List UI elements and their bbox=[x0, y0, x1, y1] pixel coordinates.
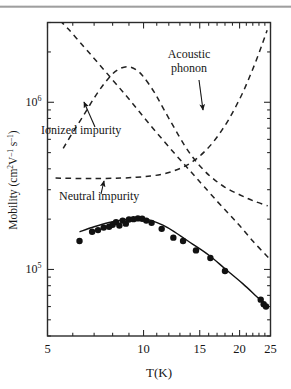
data-point-marker bbox=[159, 226, 165, 232]
data-point-markers bbox=[76, 215, 269, 310]
y-tick-label-exponent: 6 bbox=[38, 94, 42, 103]
y-axis-title: Mobility (cm2V–1 s–1) bbox=[6, 130, 20, 229]
x-tick-label: 15 bbox=[193, 342, 206, 356]
annotation-label: Ionized impurity bbox=[41, 123, 121, 137]
y-axis-tick-labels: 105106 bbox=[26, 94, 42, 276]
annotation-acoustic-phonon: Acousticphonon bbox=[168, 47, 211, 110]
data-point-marker bbox=[148, 220, 154, 226]
curve-series-group bbox=[53, 13, 268, 305]
x-axis-title: T(K) bbox=[146, 365, 172, 380]
annotation-label: Acoustic bbox=[168, 47, 211, 61]
annotation-label: Neutral impurity bbox=[59, 189, 139, 203]
data-point-marker bbox=[170, 234, 176, 240]
y-tick-label: 105 bbox=[26, 261, 42, 276]
data-point-marker bbox=[95, 227, 101, 233]
x-axis-tick-labels: 510152025 bbox=[44, 342, 276, 356]
y-tick-label-exponent: 5 bbox=[38, 261, 42, 270]
data-point-marker bbox=[76, 238, 82, 244]
data-point-marker bbox=[89, 229, 95, 235]
plot-frame bbox=[48, 23, 271, 337]
x-tick-label: 10 bbox=[137, 342, 150, 356]
x-tick-label: 5 bbox=[44, 342, 50, 356]
data-point-marker bbox=[100, 224, 106, 230]
y-tick-label: 106 bbox=[26, 94, 42, 109]
y-tick-label-text: 105 bbox=[26, 261, 42, 276]
y-tick-label-text: 106 bbox=[26, 94, 42, 109]
y-axis-ticks bbox=[48, 23, 271, 337]
figure-root: Ionized impurityAcousticphononNeutral im… bbox=[0, 0, 291, 389]
data-point-marker bbox=[193, 247, 199, 253]
mobility-vs-temperature-chart: Ionized impurityAcousticphononNeutral im… bbox=[0, 0, 291, 389]
x-tick-label: 20 bbox=[233, 342, 246, 356]
x-tick-label: 25 bbox=[264, 342, 277, 356]
annotation-label-line2: phonon bbox=[171, 61, 207, 75]
plot-frame-border bbox=[48, 23, 271, 337]
curve-neutral-impurity bbox=[56, 30, 268, 178]
data-point-marker bbox=[180, 238, 186, 244]
data-point-marker bbox=[222, 268, 228, 274]
x-axis-ticks bbox=[48, 23, 271, 337]
annotation-arrow-icon bbox=[199, 80, 203, 110]
curve-experiment-fit bbox=[80, 218, 268, 305]
annotation-neutral-impurity: Neutral impurity bbox=[59, 181, 139, 203]
data-point-marker bbox=[263, 303, 269, 309]
chart-annotations: Ionized impurityAcousticphononNeutral im… bbox=[41, 47, 210, 203]
data-point-marker bbox=[207, 255, 213, 261]
